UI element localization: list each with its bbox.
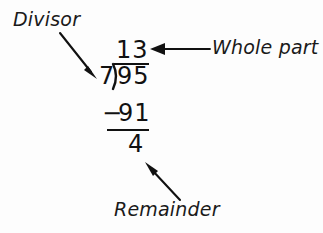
- remainder-value: 4: [128, 130, 143, 158]
- whole-part-annotation-label: Whole part: [212, 36, 318, 58]
- quotient-value: 13: [116, 36, 149, 64]
- divisor-value: 7: [99, 62, 114, 90]
- divisor-arrow-icon: [60, 33, 97, 79]
- whole-part-arrow-icon: [150, 43, 210, 55]
- division-overbar: [114, 63, 149, 65]
- divisor-annotation-label: Divisor: [13, 8, 80, 30]
- remainder-arrow-icon: [145, 162, 180, 200]
- remainder-annotation-label: Remainder: [114, 198, 220, 220]
- subtraction-rule: [107, 129, 149, 131]
- division-diagram: Divisor Whole part Remainder 13 7 95 − 9…: [0, 0, 323, 233]
- subtrahend-value: 91: [118, 99, 151, 127]
- dividend-value: 95: [117, 62, 150, 90]
